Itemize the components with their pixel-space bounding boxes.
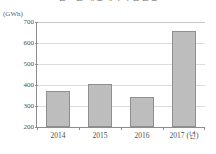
- bar-2016: [130, 97, 154, 127]
- chart-figure: 연도별 재생에너지 발전량 (GWh) 200300400500600700 2…: [0, 0, 216, 154]
- y-tick-mark: [35, 64, 38, 65]
- bar-2015: [88, 84, 112, 127]
- y-tick-label: 700: [24, 19, 35, 26]
- bar-2017: [172, 31, 196, 127]
- y-tick-label: 400: [24, 82, 35, 89]
- gridline: [37, 22, 205, 23]
- x-tick-mark: [37, 127, 38, 130]
- x-tick-mark: [79, 127, 80, 130]
- chart-title: 연도별 재생에너지 발전량: [0, 0, 216, 2]
- x-tick-label: 2015: [93, 132, 108, 140]
- y-tick-label: 300: [24, 103, 35, 110]
- y-tick-mark: [35, 85, 38, 86]
- plot-area: 200300400500600700 2014201520162017 (년): [36, 22, 205, 128]
- y-tick-label: 500: [24, 61, 35, 68]
- y-tick-mark: [35, 106, 38, 107]
- y-axis-unit-label: (GWh): [3, 10, 23, 18]
- bar-2014: [46, 91, 70, 127]
- y-tick-mark: [35, 43, 38, 44]
- x-tick-label: 2016: [135, 132, 150, 140]
- x-tick-mark: [204, 127, 205, 130]
- x-tick-mark: [121, 127, 122, 130]
- y-tick-mark: [35, 22, 38, 23]
- y-tick-label: 600: [24, 40, 35, 47]
- x-tick-mark: [163, 127, 164, 130]
- y-tick-label: 200: [24, 124, 35, 131]
- x-tick-label: 2017 (년): [170, 132, 199, 140]
- x-tick-label: 2014: [51, 132, 66, 140]
